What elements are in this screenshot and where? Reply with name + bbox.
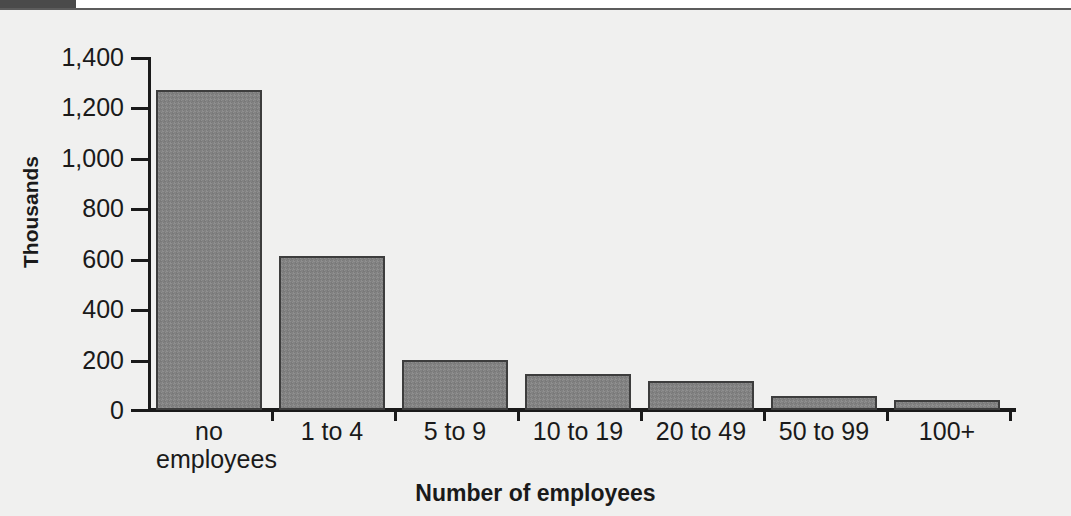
y-axis-tick <box>131 208 149 211</box>
x-axis-category-label-50-to-99: 50 to 99 <box>771 418 877 446</box>
y-tick-label: 1,000 <box>32 146 124 171</box>
bar-no-employees <box>156 90 262 410</box>
x-category-line: 10 to 19 <box>525 418 631 446</box>
chart-page: Thousands 1,400 1,200 1,000 800 600 400 … <box>0 0 1071 516</box>
y-axis-tick <box>131 107 149 110</box>
y-axis-tick <box>131 360 149 363</box>
y-tick-label: 200 <box>32 348 124 373</box>
x-axis-category-label-100-plus: 100+ <box>894 418 1000 446</box>
x-category-line: 1 to 4 <box>279 418 385 446</box>
x-axis-tick <box>640 408 643 421</box>
x-category-line: 5 to 9 <box>402 418 508 446</box>
x-axis-tick <box>886 408 889 421</box>
x-axis-tick <box>271 408 274 421</box>
chart-canvas: Thousands 1,400 1,200 1,000 800 600 400 … <box>0 10 1071 516</box>
y-axis-tick <box>131 309 149 312</box>
y-tick-label: 1,200 <box>32 95 124 120</box>
x-axis-tick <box>394 408 397 421</box>
x-axis-category-label-10-to-19: 10 to 19 <box>525 418 631 446</box>
y-axis-tick <box>131 57 149 60</box>
x-category-line: 100+ <box>894 418 1000 446</box>
y-axis-tick <box>131 409 149 412</box>
x-axis-tick <box>763 408 766 421</box>
x-category-line: no <box>156 418 262 446</box>
x-axis-category-label-1-to-4: 1 to 4 <box>279 418 385 446</box>
y-axis-tick <box>131 259 149 262</box>
y-tick-label: 1,400 <box>32 45 124 70</box>
y-tick-label: 0 <box>32 398 124 423</box>
x-axis-title: Number of employees <box>0 480 1071 507</box>
y-tick-label: 600 <box>32 247 124 272</box>
x-axis-tick <box>517 408 520 421</box>
bar-10-to-19 <box>525 374 631 410</box>
y-axis-tick <box>131 158 149 161</box>
x-axis-category-label-5-to-9: 5 to 9 <box>402 418 508 446</box>
bar-20-to-49 <box>648 381 754 410</box>
y-tick-label: 800 <box>32 196 124 221</box>
bar-5-to-9 <box>402 360 508 410</box>
y-axis-tick-labels: 1,400 1,200 1,000 800 600 400 200 0 <box>32 10 124 410</box>
y-tick-label: 400 <box>32 297 124 322</box>
bar-50-to-99 <box>771 396 877 410</box>
x-axis-tick <box>1009 408 1012 421</box>
x-category-line: employees <box>156 446 262 474</box>
x-axis-category-label-20-to-49: 20 to 49 <box>648 418 754 446</box>
bar-1-to-4 <box>279 256 385 410</box>
bar-100-plus <box>894 400 1000 410</box>
x-axis-category-label-no-employees: no employees <box>156 418 262 473</box>
x-category-line: 50 to 99 <box>771 418 877 446</box>
x-category-line: 20 to 49 <box>648 418 754 446</box>
bars-container <box>151 57 1016 410</box>
